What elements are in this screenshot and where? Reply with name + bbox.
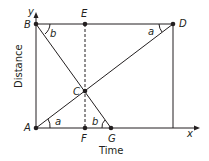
angle-arc-G	[102, 120, 105, 128]
y-axis-label: y	[27, 6, 35, 17]
y-axis-title: Distance	[13, 44, 24, 88]
x-axis-title: Time	[98, 145, 123, 156]
label-B: B	[24, 19, 31, 30]
point-B	[34, 22, 39, 27]
label-F: F	[81, 133, 87, 144]
angle-arc-A	[48, 119, 50, 128]
label-C: C	[73, 86, 80, 97]
angle-label-D: a	[148, 26, 154, 37]
x-axis-arrow-icon	[194, 126, 200, 131]
angle-arc-D	[159, 24, 162, 32]
geometry-diagram: y B E D C A F G x b a a b Time Distance	[0, 0, 209, 161]
angle-label-B: b	[50, 28, 56, 39]
point-E	[83, 22, 88, 27]
y-axis-arrow-icon	[34, 12, 39, 18]
line-BG	[36, 24, 111, 128]
point-D	[171, 22, 176, 27]
point-F	[83, 126, 88, 131]
line-AD	[36, 24, 173, 128]
point-C	[83, 89, 88, 94]
point-G	[109, 126, 114, 131]
label-D: D	[179, 18, 187, 29]
label-E: E	[81, 8, 88, 19]
label-A: A	[23, 122, 31, 133]
angle-label-A: a	[55, 116, 61, 127]
label-G: G	[108, 133, 116, 144]
point-A	[34, 126, 39, 131]
x-axis-label: x	[186, 128, 193, 139]
angle-label-G: b	[92, 116, 98, 127]
